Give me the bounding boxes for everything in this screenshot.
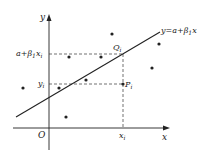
data-point bbox=[57, 86, 60, 89]
point-Q-label: Qi bbox=[113, 43, 122, 53]
data-point bbox=[64, 115, 67, 118]
scatter-points bbox=[21, 32, 160, 118]
data-point bbox=[99, 55, 102, 58]
regression-equation-label: y=a+β1x bbox=[160, 26, 197, 36]
data-point bbox=[21, 86, 24, 89]
data-point bbox=[157, 42, 160, 45]
x-axis-label: x bbox=[162, 132, 167, 142]
data-point bbox=[110, 32, 113, 35]
origin-label: O bbox=[38, 130, 46, 140]
regression-line bbox=[16, 32, 160, 117]
data-point bbox=[84, 78, 87, 81]
regression-diagram: y x O y=a+β1x a+β1xi yi xi Qi Pi bbox=[0, 0, 216, 156]
observed-value-label: yi bbox=[37, 79, 45, 89]
x-axis-arrow-icon bbox=[163, 126, 170, 131]
predicted-value-label: a+β1xi bbox=[16, 49, 42, 59]
data-point bbox=[67, 55, 70, 58]
data-point bbox=[150, 66, 153, 69]
y-axis-arrow-icon bbox=[47, 14, 52, 21]
y-axis-label: y bbox=[39, 12, 46, 22]
xi-tick-label: xi bbox=[119, 131, 126, 141]
point-P-label: Pi bbox=[124, 80, 132, 90]
